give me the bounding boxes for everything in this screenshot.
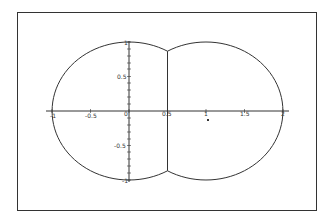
- x-tick-label: 0: [124, 110, 128, 117]
- x-tick-label: 1: [204, 110, 208, 117]
- x-tick-label: 1.5: [240, 110, 250, 117]
- y-tick-label: -1: [122, 177, 128, 184]
- point-marker: [207, 119, 209, 121]
- x-tick-label: 0.5: [162, 110, 172, 117]
- y-tick-label: 0.5: [117, 73, 127, 80]
- y-tick-label: -0.5: [114, 142, 126, 149]
- x-tick-label: -0.5: [85, 112, 97, 119]
- chart-svg: -1 -0.5 0 0.5 1 1.5 2 1 0.5 -0.5 -1: [0, 0, 335, 224]
- x-tick-label: -1: [50, 112, 56, 119]
